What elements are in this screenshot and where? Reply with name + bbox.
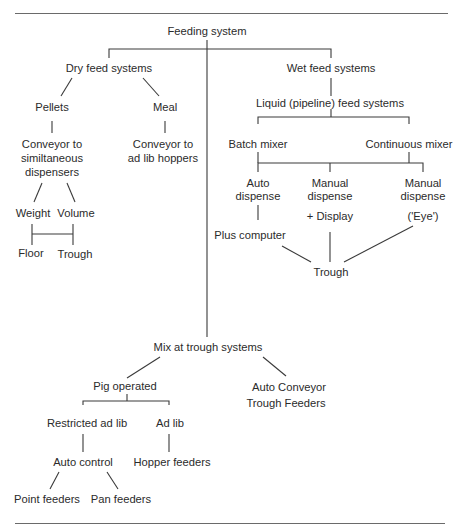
- node-pan-feeders: Pan feeders: [91, 493, 151, 506]
- node-manual-dispense-eye-line2: dispense: [401, 190, 446, 203]
- node-plus-display: + Display: [307, 210, 353, 223]
- node-conveyor-simultaneous-line3: dispensers: [25, 166, 79, 179]
- node-auto-dispense-line2: dispense: [236, 190, 281, 203]
- node-ad-lib: Ad lib: [156, 417, 184, 430]
- node-point-feeders: Point feeders: [14, 493, 80, 506]
- node-conveyor-simultaneous-line2: similtaneous: [21, 152, 83, 165]
- connector-lines: [0, 0, 460, 530]
- node-conveyor-adlib-line1: Conveyor to: [133, 138, 193, 151]
- node-hopper-feeders: Hopper feeders: [133, 456, 210, 469]
- node-pellets: Pellets: [35, 101, 69, 114]
- node-manual-dispense-line1: Manual: [312, 177, 349, 190]
- node-volume: Volume: [57, 207, 94, 220]
- feeding-system-diagram: Feeding system Dry feed systems Pellets …: [0, 0, 460, 530]
- node-eye: ('Eye'): [407, 210, 438, 223]
- node-conveyor-adlib-line2: ad lib hoppers: [128, 152, 198, 165]
- node-trough-wet: Trough: [313, 266, 348, 279]
- node-manual-dispense-eye-line1: Manual: [405, 177, 442, 190]
- node-auto-dispense-line1: Auto: [246, 177, 269, 190]
- node-wet-feed-systems: Wet feed systems: [287, 62, 376, 75]
- node-restricted-ad-lib: Restricted ad lib: [47, 417, 127, 430]
- node-weight: Weight: [16, 207, 51, 220]
- node-plus-computer: Plus computer: [214, 229, 286, 242]
- node-auto-conveyor-line2: Trough Feeders: [246, 397, 325, 410]
- node-floor: Floor: [18, 247, 44, 260]
- node-mix-at-trough: Mix at trough systems: [154, 341, 263, 354]
- node-continuous-mixer: Continuous mixer: [365, 138, 452, 151]
- node-feeding-system: Feeding system: [168, 25, 247, 38]
- node-trough-dry: Trough: [57, 248, 92, 261]
- node-auto-conveyor-line1: Auto Conveyor: [252, 381, 326, 394]
- node-batch-mixer: Batch mixer: [228, 138, 287, 151]
- node-dry-feed-systems: Dry feed systems: [66, 62, 152, 75]
- node-auto-control: Auto control: [53, 456, 113, 469]
- node-liquid-pipeline: Liquid (pipeline) feed systems: [256, 97, 404, 110]
- node-manual-dispense-line2: dispense: [308, 190, 353, 203]
- node-meal: Meal: [153, 101, 177, 114]
- node-conveyor-simultaneous-line1: Conveyor to: [22, 138, 82, 151]
- node-pig-operated: Pig operated: [93, 380, 156, 393]
